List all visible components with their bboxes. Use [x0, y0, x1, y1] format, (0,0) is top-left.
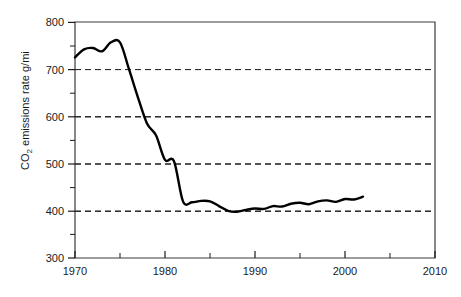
xtick-label-1970: 1970 [63, 265, 87, 277]
ytick-label-600: 600 [46, 111, 64, 123]
svg-text:CO2 emissions rate g/mi: CO2 emissions rate g/mi [19, 51, 34, 170]
ytick-label-700: 700 [46, 64, 64, 76]
y-axis-title-suffix: emissions rate g/mi [19, 51, 31, 149]
x-axis-ticks [75, 251, 435, 258]
y-axis-title-prefix: CO [19, 153, 31, 170]
co2-emissions-line-chart: 300 400 500 600 700 800 1970 1980 1990 2… [0, 0, 461, 297]
chart-figure: 300 400 500 600 700 800 1970 1980 1990 2… [0, 0, 461, 297]
xtick-label-1990: 1990 [243, 265, 267, 277]
xtick-label-2010: 2010 [423, 265, 447, 277]
xtick-label-1980: 1980 [153, 265, 177, 277]
ytick-label-400: 400 [46, 205, 64, 217]
data-series-group [75, 40, 363, 212]
y-axis-title: CO2 emissions rate g/mi [19, 51, 34, 170]
ytick-label-300: 300 [46, 252, 64, 264]
x-axis-tick-labels: 1970 1980 1990 2000 2010 [63, 265, 447, 277]
ytick-label-800: 800 [46, 16, 64, 28]
plot-frame [75, 22, 435, 258]
data-series-co2-emissions-rate [75, 40, 363, 212]
ytick-label-500: 500 [46, 158, 64, 170]
gridlines-values [75, 70, 435, 212]
xtick-label-2000: 2000 [333, 265, 357, 277]
y-axis-tick-labels: 300 400 500 600 700 800 [46, 16, 64, 264]
